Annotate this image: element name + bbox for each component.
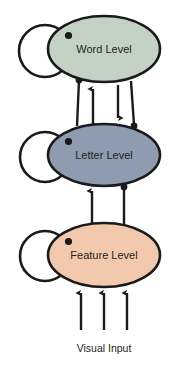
word-self-loop-dot-icon bbox=[65, 32, 72, 39]
node-feature-level[interactable]: Feature Level bbox=[48, 223, 160, 287]
node-word-level-label: Word Level bbox=[76, 43, 131, 55]
diagram-canvas: Word Level Letter Level Feature Level Vi… bbox=[0, 0, 175, 365]
connection-feature-to-letter-inhibitory bbox=[121, 184, 128, 226]
connection-letter-to-word-inhibitory-right bbox=[131, 81, 138, 129]
feature-self-loop-dot-icon bbox=[65, 238, 72, 245]
letter-self-loop-dot-icon bbox=[65, 138, 72, 145]
iac-model-diagram: Word Level Letter Level Feature Level Vi… bbox=[0, 0, 175, 365]
node-feature-level-label: Feature Level bbox=[70, 249, 137, 261]
node-letter-level[interactable]: Letter Level bbox=[48, 124, 160, 186]
visual-input-label: Visual Input bbox=[77, 342, 132, 354]
connection-word-to-letter-inhibitory-left bbox=[76, 77, 83, 126]
node-letter-level-label: Letter Level bbox=[75, 149, 132, 161]
visual-input-arrows bbox=[81, 293, 127, 330]
node-word-level[interactable]: Word Level bbox=[48, 16, 160, 82]
